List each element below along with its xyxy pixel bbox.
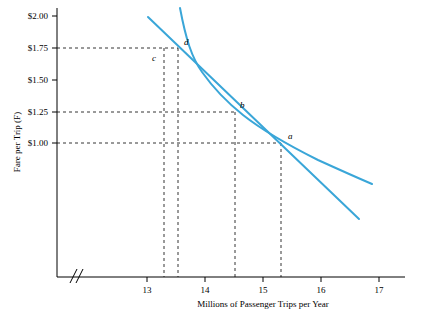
demand-curve <box>180 8 372 184</box>
chart-container: a b c d $1.00 $1.25 $1.50 $1.75 $2.00 13… <box>0 0 425 314</box>
x-tick-label-0: 13 <box>143 285 153 295</box>
chart-svg: a b c d $1.00 $1.25 $1.50 $1.75 $2.00 13… <box>0 0 425 314</box>
y-axis-title: Fare per Trip (F) <box>12 112 22 172</box>
axes <box>57 8 405 277</box>
data-curves <box>148 8 372 219</box>
label-c: c <box>152 53 156 63</box>
x-tick-label-2: 15 <box>259 285 269 295</box>
x-tick-label-3: 16 <box>317 285 327 295</box>
dashed-guides <box>57 48 281 277</box>
y-tick-labels: $1.00 $1.25 $1.50 $1.75 $2.00 <box>28 11 49 148</box>
x-tick-label-1: 14 <box>201 285 211 295</box>
label-d: d <box>184 37 189 47</box>
x-tick-labels: 13 14 15 16 17 <box>143 285 385 295</box>
x-tick-marks <box>147 277 379 282</box>
x-tick-label-4: 17 <box>375 285 385 295</box>
label-b: b <box>240 100 245 110</box>
x-axis-title: Millions of Passenger Trips per Year <box>197 299 329 309</box>
y-tick-marks <box>52 16 57 143</box>
y-tick-label-2: $1.50 <box>28 75 49 85</box>
y-tick-label-3: $1.75 <box>28 43 49 53</box>
axis-break-marks <box>70 269 83 283</box>
tangent-line <box>148 17 359 219</box>
y-tick-label-4: $2.00 <box>28 11 49 21</box>
label-a: a <box>288 131 293 141</box>
y-tick-label-0: $1.00 <box>28 138 49 148</box>
y-tick-label-1: $1.25 <box>28 107 49 117</box>
